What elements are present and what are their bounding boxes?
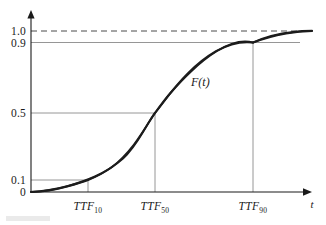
y-tick-label-0-5: 0.5	[11, 107, 26, 119]
y-tick-label-1-0: 1.0	[11, 25, 26, 37]
x-tick-ttf50: TTF50	[141, 200, 170, 215]
x-tick-ttf90-main: TTF	[239, 200, 260, 212]
cdf-curve-main	[31, 42, 253, 192]
x-tick-ttf90-sub: 90	[259, 206, 267, 215]
x-tick-ttf10-sub: 10	[94, 206, 102, 215]
figure-container: 1.0 0.9 0.5 0.1 0 TTF10 TTF50 TTF90 t F(…	[0, 0, 326, 225]
y-tick-label-0-9: 0.9	[11, 37, 26, 49]
svg-text:TTF10: TTF10	[74, 200, 103, 215]
x-tick-ttf10-main: TTF	[74, 200, 95, 212]
y-axis-arrow-icon	[27, 10, 34, 19]
x-axis-arrow-icon	[303, 188, 312, 196]
x-tick-ttf50-main: TTF	[141, 200, 162, 212]
x-axis-label: t	[310, 198, 314, 210]
x-tick-ttf90: TTF90	[239, 200, 268, 215]
y-tick-label-0-1: 0.1	[11, 174, 26, 186]
x-tick-ttf10: TTF10	[74, 200, 103, 215]
cdf-curve	[31, 31, 312, 192]
cdf-plot: 1.0 0.9 0.5 0.1 0 TTF10 TTF50 TTF90 t F(…	[0, 0, 326, 225]
svg-text:TTF90: TTF90	[239, 200, 268, 215]
curve-annotation-ft: F(t)	[190, 75, 210, 89]
page-artifact	[6, 216, 50, 221]
x-tick-ttf50-sub: 50	[161, 206, 169, 215]
svg-text:TTF50: TTF50	[141, 200, 170, 215]
y-tick-label-0: 0	[20, 186, 26, 198]
